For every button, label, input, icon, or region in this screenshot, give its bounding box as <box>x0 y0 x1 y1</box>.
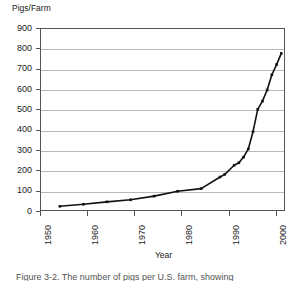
y-tick-label: 800 <box>2 44 32 53</box>
figure-caption-text: Figure 3-2. The number of pigs per U.S. … <box>16 272 233 281</box>
data-point-marker <box>200 187 203 190</box>
x-tick-mark <box>134 211 135 216</box>
data-point-marker <box>153 195 156 198</box>
data-point-marker <box>129 199 132 202</box>
x-axis-title: Year <box>0 250 301 260</box>
x-tick-mark <box>87 211 88 216</box>
data-point-marker <box>252 130 255 133</box>
y-tick-label: 0 <box>2 207 32 216</box>
x-tick-label: 1980 <box>185 225 194 245</box>
x-tick-mark <box>276 211 277 216</box>
y-tick-label: 600 <box>2 85 32 94</box>
data-point-marker <box>261 100 264 103</box>
data-point-marker <box>106 201 109 204</box>
figure-caption: Figure 3-2. The number of pigs per U.S. … <box>16 272 301 281</box>
data-point-marker <box>233 164 236 167</box>
data-point-marker <box>176 190 179 193</box>
x-tick-label: 1990 <box>232 225 241 245</box>
x-tick-label: 2000 <box>279 225 288 245</box>
data-point-marker <box>266 89 269 92</box>
x-tick-mark <box>181 211 182 216</box>
y-tick-label: 900 <box>2 24 32 33</box>
data-point-marker <box>59 205 62 208</box>
data-point-marker <box>247 148 250 151</box>
data-point-marker <box>238 161 241 164</box>
y-tick-label: 400 <box>2 125 32 134</box>
series-line <box>60 53 281 206</box>
x-axis-title-text: Year <box>155 250 172 260</box>
y-tick-label: 300 <box>2 146 32 155</box>
data-point-marker <box>82 203 85 206</box>
x-tick-mark <box>229 211 230 216</box>
y-tick-label: 100 <box>2 186 32 195</box>
y-tick-label: 500 <box>2 105 32 114</box>
y-tick-label: 700 <box>2 64 32 73</box>
data-point-marker <box>219 176 222 179</box>
y-axis-title: Pigs/Farm <box>12 3 51 13</box>
y-tick-label: 200 <box>2 166 32 175</box>
data-series-line <box>41 29 286 212</box>
x-tick-mark <box>40 211 41 216</box>
data-point-marker <box>242 156 245 159</box>
plot-area <box>40 28 285 211</box>
data-point-marker <box>223 173 226 176</box>
x-tick-label: 1950 <box>44 225 53 245</box>
data-point-marker <box>280 52 283 55</box>
figure-chart-pigs-per-farm: Pigs/Farm 9008007006005004003002001000 1… <box>0 0 301 281</box>
data-point-marker <box>275 63 278 66</box>
data-point-marker <box>256 108 259 111</box>
x-tick-label: 1970 <box>138 225 147 245</box>
x-tick-label: 1960 <box>91 225 100 245</box>
data-point-marker <box>271 73 274 76</box>
